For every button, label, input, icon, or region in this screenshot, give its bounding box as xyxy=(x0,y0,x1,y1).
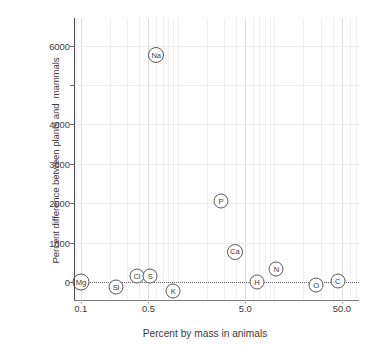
gridline-vertical xyxy=(303,18,304,300)
y-tick-label: 0 xyxy=(30,277,70,288)
data-point-label: Si xyxy=(113,283,119,291)
y-axis-line xyxy=(74,18,75,300)
data-point-label: S xyxy=(148,273,153,281)
y-tick-mark xyxy=(70,282,75,283)
data-point-label: Mg xyxy=(76,278,86,286)
y-tick-mark xyxy=(70,164,75,165)
gridline-vertical xyxy=(270,18,271,300)
y-tick-mark xyxy=(70,85,75,86)
y-tick-label: 3000 xyxy=(30,158,70,169)
x-tick-label: 50.0 xyxy=(333,303,351,314)
gridline-vertical xyxy=(333,18,334,300)
gridline-vertical xyxy=(76,18,77,300)
gridline-vertical xyxy=(81,18,82,300)
y-tick-label: 1000 xyxy=(30,237,70,248)
x-axis-line xyxy=(74,300,359,301)
gridline-horizontal xyxy=(74,124,359,125)
data-point-si: Si xyxy=(108,279,123,294)
data-point-label: Cl xyxy=(134,273,141,281)
gridline-vertical xyxy=(139,18,140,300)
y-tick-label: 4000 xyxy=(30,119,70,130)
gridline-vertical xyxy=(321,18,322,300)
y-tick-label: 2000 xyxy=(30,198,70,209)
x-tick-label: 0.1 xyxy=(74,303,87,314)
x-tick-label: 5.0 xyxy=(239,303,252,314)
gridline-horizontal xyxy=(74,164,359,165)
data-point-o: O xyxy=(309,278,324,293)
y-tick-label: 6000 xyxy=(30,40,70,51)
data-point-na: Na xyxy=(148,47,164,63)
data-point-h: H xyxy=(249,275,264,290)
gridline-vertical xyxy=(168,18,169,300)
y-tick-label-group: 010002000300040006000 xyxy=(25,0,70,352)
y-tick-mark xyxy=(70,243,75,244)
x-tick-label: 0.5 xyxy=(142,303,155,314)
gridline-vertical xyxy=(178,18,179,300)
scatter-chart: Percent difference between plants and ma… xyxy=(0,0,369,352)
data-point-label: Na xyxy=(151,52,160,60)
gridline-vertical xyxy=(274,18,275,300)
data-point-label: H xyxy=(254,278,259,286)
data-point-ca: Ca xyxy=(227,244,243,260)
y-tick-mark xyxy=(70,203,75,204)
gridline-vertical xyxy=(265,18,266,300)
data-point-label: Ca xyxy=(230,248,239,256)
gridline-horizontal xyxy=(74,46,359,47)
data-point-s: S xyxy=(143,269,158,284)
gridline-vertical xyxy=(245,18,246,300)
data-point-label: N xyxy=(274,265,279,273)
gridline-vertical xyxy=(224,18,225,300)
data-point-label: O xyxy=(313,281,319,289)
gridline-vertical xyxy=(356,18,357,300)
plot-area: MgSiClSNaKPCaHNOC xyxy=(74,18,359,300)
y-tick-mark xyxy=(70,46,75,47)
gridline-vertical xyxy=(342,18,343,300)
data-point-n: N xyxy=(269,262,284,277)
data-point-label: P xyxy=(218,198,223,206)
y-tick-mark xyxy=(70,124,75,125)
gridline-vertical xyxy=(127,18,128,300)
data-point-label: K xyxy=(171,287,176,295)
gridline-horizontal xyxy=(74,243,359,244)
gridline-vertical xyxy=(163,18,164,300)
gridline-vertical xyxy=(253,18,254,300)
gridline-vertical xyxy=(110,18,111,300)
data-point-c: C xyxy=(330,274,345,289)
gridline-vertical xyxy=(259,18,260,300)
data-point-label: C xyxy=(335,277,340,285)
gridline-vertical xyxy=(350,18,351,300)
x-axis-title: Percent by mass in animals xyxy=(55,328,355,339)
data-point-k: K xyxy=(166,283,181,298)
gridline-vertical xyxy=(173,18,174,300)
gridline-vertical xyxy=(207,18,208,300)
data-point-p: P xyxy=(213,194,228,209)
gridline-horizontal xyxy=(74,85,359,86)
